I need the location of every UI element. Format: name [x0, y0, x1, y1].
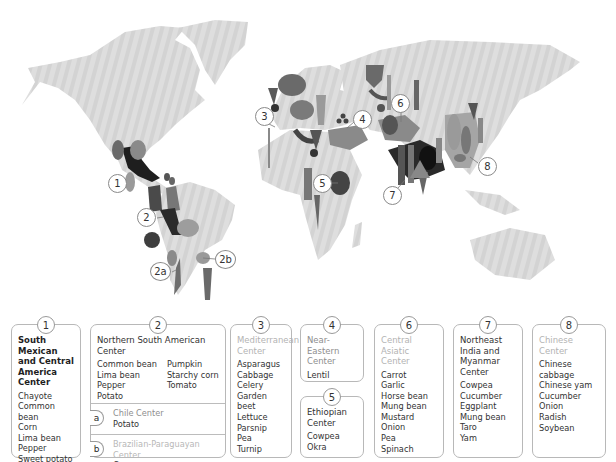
crop-item: Mung bean	[381, 401, 437, 412]
crop-item: Horse bean	[381, 391, 437, 402]
center-card-3: 3 Mediterranean Center Asparagus Cabbage…	[230, 324, 292, 458]
crop-icon-cucumber-china	[436, 138, 442, 163]
crop-item: Common bean	[18, 401, 74, 422]
center-title: Chinese Center	[539, 335, 599, 356]
crop-item: Okra	[307, 442, 357, 453]
crop-item: Garlic	[381, 380, 437, 391]
center-number-3: 3	[252, 316, 270, 334]
map-marker-7[interactable]: 7	[383, 186, 402, 205]
crop-item: Eggplant	[460, 401, 516, 412]
crop-item: Celery	[237, 380, 285, 391]
map-marker-4[interactable]: 4	[353, 110, 372, 129]
subcenter-b: b Brazilian-Paraguayan Center Cassava	[91, 434, 225, 462]
crop-icon-chinese-cabbage	[447, 114, 461, 150]
crop-item: Pepper	[18, 443, 74, 454]
crop-item: Asparagus	[237, 359, 285, 370]
center-title: Northern South American Center	[97, 335, 219, 356]
crop-item: Yam	[460, 433, 516, 444]
center-title: South Mexican and Central America Center	[18, 335, 74, 388]
center-title: Near-Eastern Center	[307, 335, 357, 367]
crop-item: Onion	[539, 401, 599, 412]
crop-icon-bean	[169, 177, 175, 185]
crop-item: Soybean	[539, 423, 599, 434]
center-card-5: 5 Ethiopian Center Cowpea Okra	[300, 396, 364, 458]
madagascar-landmass	[352, 222, 362, 248]
center-number-8: 8	[560, 316, 578, 334]
crop-item: Starchy corn	[167, 370, 219, 381]
crop-item: Cabbage	[237, 370, 285, 381]
crop-item: Lettuce	[237, 412, 285, 423]
crop-item: Chayote	[18, 391, 74, 402]
crop-icon-lentil-3	[344, 119, 349, 124]
crop-icon-asparagus	[268, 128, 270, 168]
crop-icon-cabbage	[278, 74, 306, 96]
crop-item: Cowpea	[307, 431, 357, 442]
subcenter-title: Brazilian-Paraguayan Center	[113, 439, 219, 460]
center-number-7: 7	[479, 316, 497, 334]
crop-icon-tomato	[144, 232, 160, 248]
crop-item: Pea	[381, 433, 437, 444]
crop-icon-chinese-yam	[478, 118, 483, 143]
subcenter-title: Chile Center	[113, 408, 219, 419]
center-number-4: 4	[323, 316, 341, 334]
crop-icon-potato	[177, 219, 199, 237]
center-card-8: 8 Chinese Center Chinese cabbage Chinese…	[532, 324, 606, 458]
crop-icon-radish	[461, 126, 471, 154]
crop-icon-lentil-2	[337, 119, 342, 124]
crop-icon-mustard	[382, 115, 398, 135]
crop-icon-taro	[398, 145, 405, 185]
crop-item: Turnip	[237, 444, 285, 455]
crop-icon-carrot	[414, 80, 419, 110]
crop-item: Potato	[97, 391, 157, 402]
crop-icon-chile-potato	[167, 250, 177, 266]
center-card-7: 7 Northeast India and Myanmar Center Cow…	[453, 324, 523, 458]
map-marker-5[interactable]: 5	[313, 174, 332, 193]
crop-item: Chinese yam	[539, 380, 599, 391]
center-card-6: 6 Central Asiatic Center Carrot Garlic H…	[374, 324, 444, 458]
crop-item: Common bean	[97, 359, 157, 370]
center-card-2: 2 Northern South American Center Common …	[90, 324, 226, 458]
crop-item: Potato	[113, 419, 219, 430]
crop-item: Lentil	[307, 370, 357, 381]
crop-icon-cowpea	[304, 168, 312, 200]
crop-item: Taro	[460, 422, 516, 433]
map-marker-1[interactable]: 1	[108, 174, 127, 193]
crop-item: Pumpkin	[167, 359, 219, 370]
subcenter-letter-a: a	[90, 410, 104, 426]
crop-item: Onion	[381, 422, 437, 433]
crop-item: Lima bean	[18, 433, 74, 444]
center-number-6: 6	[400, 316, 418, 334]
subcenter-a: a Chile Center Potato	[91, 403, 225, 432]
crop-icon-chayote	[112, 140, 124, 160]
map-marker-8[interactable]: 8	[478, 157, 497, 176]
map-marker-3[interactable]: 3	[255, 107, 274, 126]
subcenter-letter-b: b	[90, 441, 104, 457]
crop-item: Cucumber	[460, 391, 516, 402]
map-marker-6[interactable]: 6	[391, 94, 410, 113]
crop-item: Cowpea	[460, 380, 516, 391]
map-marker-2b[interactable]: 2b	[215, 250, 236, 269]
crop-item: Mustard	[381, 412, 437, 423]
crop-item: Pea	[237, 433, 285, 444]
crop-item: Tomato	[167, 380, 219, 391]
crop-icon-onion-china	[454, 154, 466, 162]
crop-columns: Common bean Lima bean Pepper Potato Pump…	[97, 359, 219, 401]
center-number-5: 5	[323, 388, 341, 406]
center-title: Mediterranean Center	[237, 335, 285, 356]
center-card-4: 4 Near-Eastern Center Lentil	[300, 324, 364, 382]
crop-item: Chinese cabbage	[539, 359, 599, 380]
world-map	[0, 0, 616, 300]
map-marker-2[interactable]: 2	[137, 208, 156, 227]
crop-item: Parsnip	[237, 423, 285, 434]
center-number-1: 1	[37, 316, 55, 334]
crop-item: Sweet potato	[18, 454, 74, 462]
map-marker-2a[interactable]: 2a	[150, 262, 171, 281]
crop-item: Lima bean	[97, 370, 157, 381]
crop-icon-lentil	[341, 114, 346, 119]
crop-item: Mung bean	[460, 412, 516, 423]
australia-landmass	[470, 228, 555, 280]
crop-icon-lima-bean	[164, 173, 170, 181]
center-title: Northeast India and Myanmar Center	[460, 335, 516, 377]
center-title: Ethiopian Center	[307, 407, 357, 428]
crop-column-1: Common bean Lima bean Pepper Potato	[97, 359, 157, 401]
